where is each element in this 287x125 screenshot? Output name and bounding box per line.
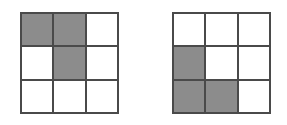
empty-cell-r2-c2: [205, 46, 237, 79]
filled-cell-r1-c1: [21, 13, 53, 46]
empty-cell-r1-c1: [173, 13, 205, 46]
empty-cell-r2-c3: [86, 46, 118, 79]
empty-cell-r1-c3: [238, 13, 270, 46]
filled-cell-r1-c2: [53, 13, 85, 46]
filled-cell-r2-c1: [173, 46, 205, 79]
empty-cell-r2-c1: [21, 46, 53, 79]
empty-cell-r3-c3: [238, 80, 270, 113]
filled-cell-r3-c1: [173, 80, 205, 113]
filled-cell-r2-c2: [53, 46, 85, 79]
empty-cell-r1-c3: [86, 13, 118, 46]
empty-cell-r3-c1: [21, 80, 53, 113]
filled-cell-r3-c2: [205, 80, 237, 113]
left-grid: [20, 12, 119, 114]
empty-cell-r1-c2: [205, 13, 237, 46]
right-grid: [172, 12, 271, 114]
empty-cell-r3-c2: [53, 80, 85, 113]
empty-cell-r2-c3: [238, 46, 270, 79]
empty-cell-r3-c3: [86, 80, 118, 113]
